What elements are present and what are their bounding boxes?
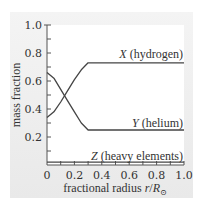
chart: 0.20.40.60.81.0 00.20.40.60.81.0 X (hydr… [0,0,203,210]
y-tick-label: 1.0 [25,19,43,32]
y-tick-label: 0.8 [25,47,43,60]
y-tick-label: 0.2 [25,131,43,144]
y-tick-label: 0.6 [25,75,43,88]
y-tick-label: 0.4 [25,103,43,116]
label-heavy-elements: Z (heavy elements) [91,149,183,163]
y-axis-label: mass fraction [9,63,23,127]
x-axis-label: fractional radius r/R⊙ [63,181,166,197]
x-tick-label: 1.0 [175,169,193,182]
label-helium: Y (helium) [132,116,183,130]
y-tick-labels: 0.20.40.60.81.0 [25,19,43,144]
plot-area [47,25,184,165]
label-hydrogen: X (hydrogen) [118,47,183,61]
x-tick-label: 0 [44,169,51,182]
